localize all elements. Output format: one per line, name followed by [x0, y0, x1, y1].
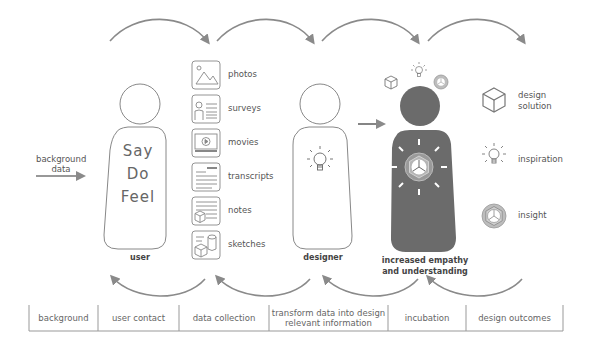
movie-icon [192, 129, 220, 157]
outcome-label-design-solution: design solution [518, 90, 552, 112]
phase-design-outcomes: design outcomes [466, 305, 563, 331]
insight-icon [482, 204, 506, 228]
input-label-line1: background [36, 154, 86, 164]
lightbulb-icon [482, 143, 506, 163]
designer-lightbulb-icon [307, 146, 333, 170]
photo-icon [192, 61, 220, 89]
feedback-arrow-4 [428, 277, 522, 296]
cube-icon [483, 88, 505, 112]
small-cube-icon [385, 76, 397, 89]
phase-transform-data: transform data into design relevant info… [269, 305, 388, 331]
user-words: Say Do Feel [110, 140, 166, 209]
feedback-arrow-2 [217, 277, 310, 296]
source-label-photos: photos [228, 69, 257, 79]
diagram-shapes [0, 0, 592, 354]
designer-label: designer [293, 252, 353, 263]
source-label-transcripts: transcripts [228, 171, 274, 181]
transcript-icon [192, 163, 220, 191]
word-say: Say [110, 140, 166, 163]
phase-background: background [29, 305, 98, 331]
phase-user-contact: user contact [98, 305, 179, 331]
outcome-label-insight: insight [518, 210, 547, 220]
phase-data-collection: data collection [179, 305, 269, 331]
empathy-label-line2: and understanding [380, 266, 470, 277]
empathy-label: increased empathy and understanding [380, 255, 470, 277]
survey-icon [192, 95, 220, 123]
forward-arrow-1 [110, 19, 208, 42]
user-label: user [110, 252, 170, 263]
forward-arrows [110, 19, 524, 42]
small-insight-icon [434, 75, 448, 89]
input-label-line2: data [36, 164, 86, 174]
outcome-solution: solution [518, 101, 552, 112]
feedback-arrow-3 [324, 277, 418, 296]
forward-arrow-3 [322, 19, 418, 42]
input-label: background data [36, 154, 86, 174]
notes-icon [192, 197, 220, 225]
outcome-design: design [518, 90, 552, 101]
outcome-label-inspiration: inspiration [518, 154, 563, 164]
source-label-movies: movies [228, 137, 259, 147]
sketch-icon [192, 231, 220, 259]
word-feel: Feel [110, 186, 166, 209]
empathy-label-line1: increased empathy [380, 255, 470, 266]
feedback-arrows [112, 277, 522, 296]
source-label-notes: notes [228, 205, 252, 215]
forward-arrow-2 [217, 19, 313, 42]
feedback-arrow-1 [112, 277, 205, 296]
source-label-sketches: sketches [228, 239, 265, 249]
source-icons [192, 61, 220, 259]
source-label-surveys: surveys [228, 103, 261, 113]
phase-incubation: incubation [388, 305, 466, 331]
small-lightbulb-icon [411, 62, 427, 77]
forward-arrow-4 [428, 19, 524, 42]
word-do: Do [110, 163, 166, 186]
